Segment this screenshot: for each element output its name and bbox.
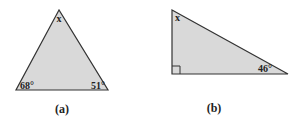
angle-b-top-label: x (175, 12, 180, 23)
angle-a-top-label: x (57, 13, 62, 24)
triangle-a-shape (16, 10, 108, 90)
caption-a: (a) (55, 102, 69, 116)
angle-a-bottom-right-label: 51° (91, 80, 105, 91)
angle-b-bottom-right-label: 46° (258, 63, 272, 74)
angle-a-bottom-left-label: 68° (20, 80, 34, 91)
caption-b: (b) (207, 101, 222, 115)
triangles-diagram: x 68° 51° (a) x 46° (b) (0, 0, 304, 123)
triangle-a: x 68° 51° (a) (16, 10, 108, 116)
triangle-b: x 46° (b) (172, 10, 288, 115)
